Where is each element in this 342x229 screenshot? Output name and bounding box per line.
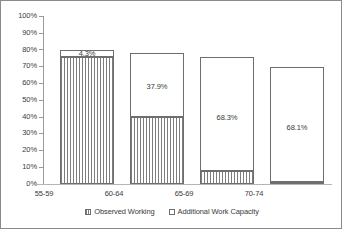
bar-value-label-55-59: 4.3%: [60, 49, 114, 58]
x-axis-line: [34, 184, 332, 185]
legend-label-observed-working: Observed Working: [94, 207, 154, 216]
bar-value-label-70-74: 68.1%: [270, 123, 324, 132]
y-axis-label-40: 40%: [5, 113, 37, 121]
legend-item-additional-work-capacity[interactable]: Additional Work Capacity: [169, 207, 259, 216]
y-axis-label-30: 30%: [5, 129, 37, 137]
plot-area: 4.3% 37.9% 68.3% 68.1%: [44, 16, 331, 184]
y-axis-label-20: 20%: [5, 146, 37, 154]
y-axis-label-80: 80%: [5, 46, 37, 54]
y-axis-label-70: 70%: [5, 62, 37, 70]
x-axis-label-55-59: 55-59: [9, 189, 79, 198]
bar-segment-observed-60-64[interactable]: [130, 117, 184, 184]
legend-label-additional-work-capacity: Additional Work Capacity: [178, 207, 259, 216]
bar-segment-observed-55-59[interactable]: [60, 57, 114, 184]
y-axis-label-10: 10%: [5, 163, 37, 171]
x-axis-label-70-74: 70-74: [219, 189, 289, 198]
bar-segment-observed-70-74[interactable]: [270, 182, 324, 185]
white-swatch-icon: [169, 209, 175, 215]
y-axis-label-60: 60%: [5, 79, 37, 87]
chart-legend: Observed Working Additional Work Capacit…: [1, 207, 342, 216]
chart-figure: 100% 90% 80% 70% 60% 50% 40% 30% 20% 10%…: [0, 0, 342, 229]
x-axis-label-60-64: 60-64: [79, 189, 149, 198]
legend-item-observed-working[interactable]: Observed Working: [85, 207, 154, 216]
y-axis-label-90: 90%: [5, 29, 37, 37]
y-axis-label-50: 50%: [5, 96, 37, 104]
bar-value-label-60-64: 37.9%: [130, 82, 184, 91]
y-axis-label-0: 0%: [5, 180, 37, 188]
x-axis-label-65-69: 65-69: [149, 189, 219, 198]
bar-segment-observed-65-69[interactable]: [200, 171, 254, 184]
bar-value-label-65-69: 68.3%: [200, 113, 254, 122]
y-axis-label-100: 100%: [5, 12, 37, 20]
hatched-swatch-icon: [85, 209, 91, 215]
